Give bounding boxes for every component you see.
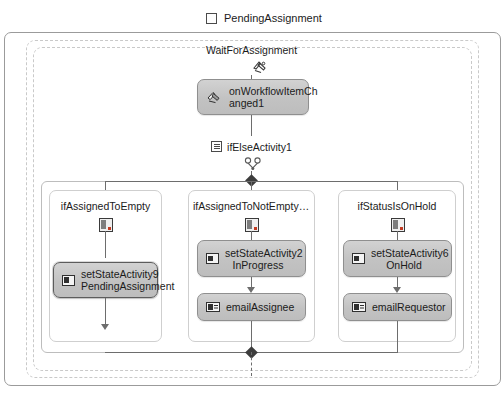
connector-branch3-tail [397, 321, 398, 353]
arrow-branch1-end [101, 324, 109, 330]
set-state-icon [62, 275, 75, 286]
condition-icon [245, 218, 259, 232]
state-icon [206, 13, 217, 24]
connector-branch1-to-activity [105, 231, 106, 258]
activity-email-assignee[interactable]: emailAssignee [197, 293, 306, 321]
workflow-designer-canvas[interactable]: PendingAssignment WaitForAssignment onWo… [0, 0, 503, 401]
activity-set-state-activity-9[interactable]: setStateActivity9 PendingAssignment [53, 262, 158, 298]
ifelse-label-text: ifElseActivity1 [227, 141, 292, 153]
email-icon [352, 302, 366, 312]
event-driven-label: WaitForAssignment [0, 44, 503, 56]
activity-on-workflow-item-changed[interactable]: onWorkflowItemCh anged1 [197, 79, 309, 115]
branch-title: ifStatusIsOnHold [339, 200, 455, 212]
activity-email-requestor[interactable]: emailRequestor [343, 293, 452, 321]
condition-icon [391, 218, 405, 232]
set-state-icon [352, 253, 365, 264]
ifelse-icon [211, 141, 222, 152]
state-title: PendingAssignment [206, 12, 322, 24]
state-title-label: PendingAssignment [224, 12, 322, 24]
activity-label: emailAssignee [226, 301, 305, 313]
ifelse-label: ifElseActivity1 [0, 141, 503, 153]
connector-branch2-to-activity [251, 231, 252, 240]
connector-handler-to-ifelse [251, 115, 252, 136]
decision-icon [243, 156, 263, 172]
connector-merge-tail [251, 352, 252, 376]
connector-branch3-to-activity [397, 231, 398, 240]
activity-label: setStateActivity6 OnHold [371, 247, 451, 271]
activity-set-state-activity-2[interactable]: setStateActivity2 InProgress [197, 240, 306, 277]
activity-label: emailRequestor [372, 301, 451, 313]
email-icon [206, 302, 220, 312]
set-state-icon [206, 253, 219, 264]
activity-set-state-activity-6[interactable]: setStateActivity6 OnHold [343, 240, 452, 277]
activity-label: setStateActivity2 InProgress [225, 247, 305, 271]
branch-title: ifAssignedToNotEmptyAn... [189, 200, 314, 212]
event-driven-icon [251, 59, 269, 75]
activity-label: setStateActivity9 PendingAssignment [81, 268, 186, 292]
condition-icon [99, 218, 113, 232]
activity-label: onWorkflowItemCh anged1 [229, 85, 318, 109]
branch-title: ifAssignedToEmpty [50, 200, 161, 212]
event-handler-icon [206, 90, 223, 104]
